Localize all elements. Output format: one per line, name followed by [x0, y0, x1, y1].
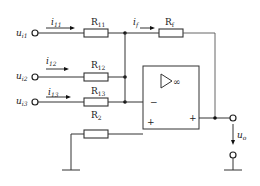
resistor-r11-label: R11 [91, 17, 105, 28]
resistor-r13 [84, 98, 108, 106]
circuit-diagram: ui1 i11 R11 ui2 i12 R12 ui3 i13 R13 [0, 0, 260, 186]
resistor-rf [159, 29, 183, 37]
resistor-rf-label: Rf [165, 17, 175, 28]
input-terminal-3 [32, 99, 38, 105]
balance-branch: R2 [62, 110, 143, 170]
opamp-triangle-icon [161, 74, 172, 88]
input-voltage-1-label: ui1 [16, 28, 28, 39]
input-terminal-1 [32, 30, 38, 36]
input-current-2-label: i12 [46, 56, 57, 67]
input-branch-2: ui2 i12 R12 [16, 56, 127, 82]
output-pin-label: + [189, 113, 197, 123]
opamp: ∞ − + + [143, 66, 199, 129]
noninverting-input-label: + [147, 117, 155, 127]
input-branch-3: ui3 i13 R13 [16, 86, 127, 107]
resistor-r2-label: R2 [91, 110, 102, 121]
output-terminal [230, 115, 236, 121]
resistor-r11 [84, 29, 108, 37]
inverting-input-label: − [150, 97, 158, 107]
output-ground-terminal [230, 152, 236, 158]
svg-text:∞: ∞ [173, 77, 181, 87]
resistor-r2 [84, 130, 108, 138]
output-branch: uo [199, 115, 247, 170]
feedback-current-label: if [133, 17, 140, 29]
input-current-1-label: i11 [51, 17, 62, 28]
output-voltage-label: uo [237, 130, 247, 141]
resistor-r12-label: R12 [91, 60, 106, 71]
input-voltage-3-label: ui3 [16, 96, 28, 107]
resistor-r13-label: R13 [91, 86, 106, 97]
feedback-path: if Rf [125, 17, 215, 118]
input-branch-1: ui1 i11 R11 [16, 17, 127, 39]
input-current-3-label: i13 [48, 87, 59, 98]
resistor-r12 [84, 73, 108, 81]
input-voltage-2-label: ui2 [16, 71, 28, 82]
input-terminal-2 [32, 74, 38, 80]
